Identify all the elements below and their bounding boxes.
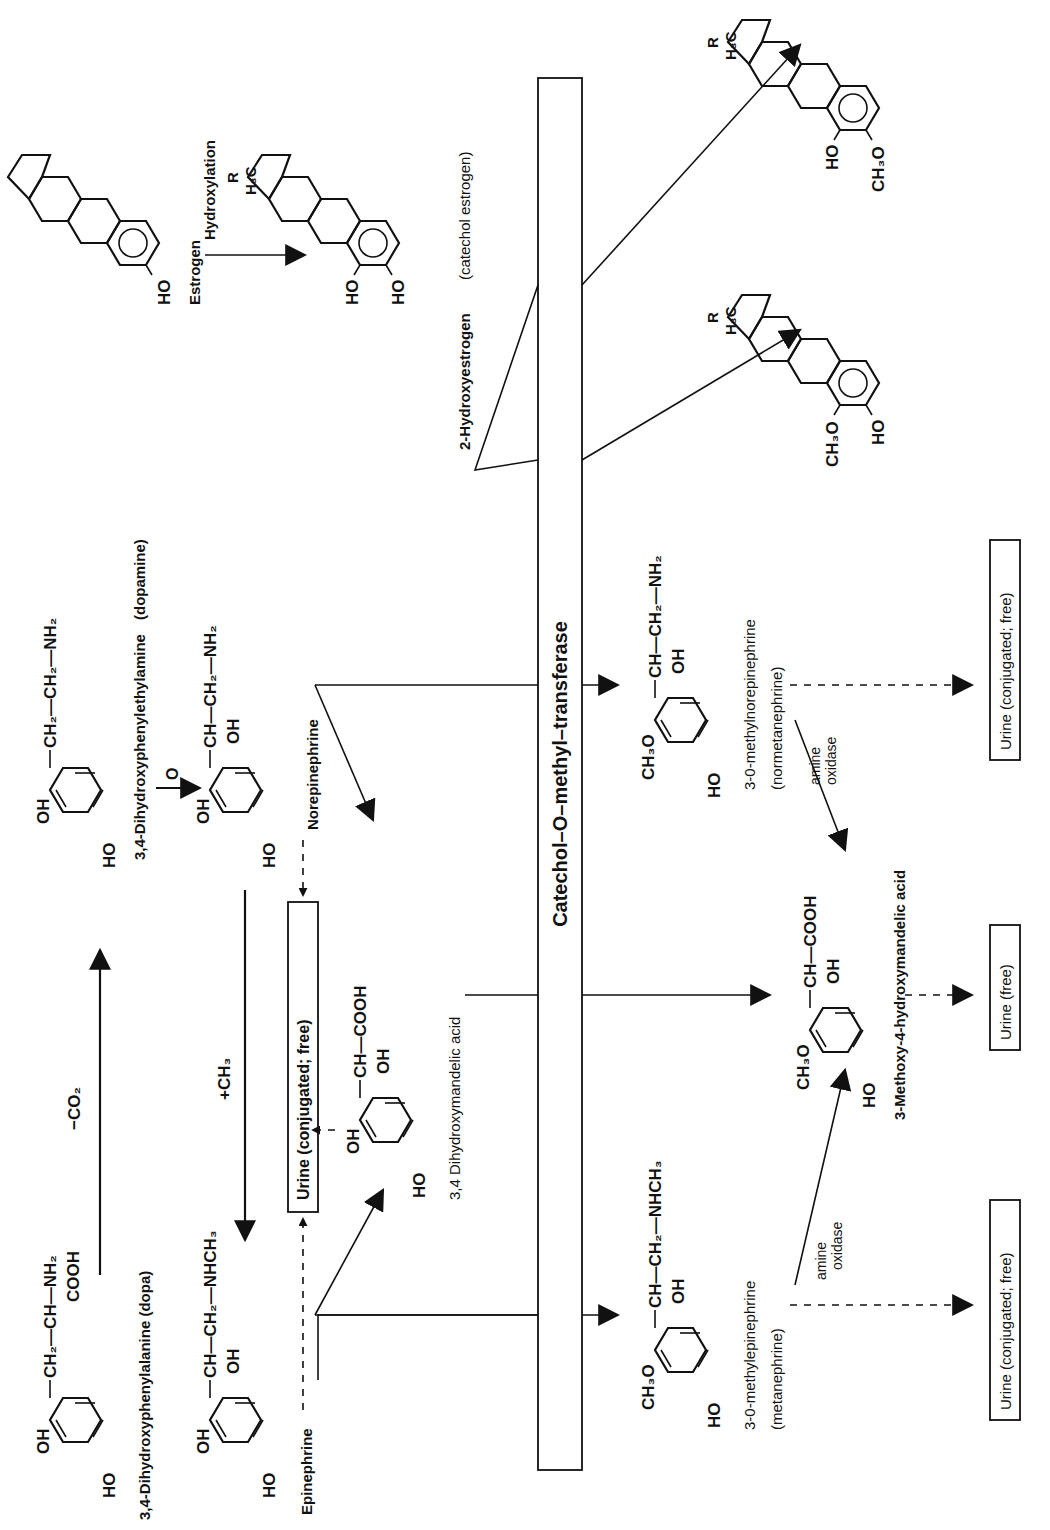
comt-enzyme-bar: Catechol–O–methyl–transferase: [538, 78, 582, 1470]
svg-text:HO: HO: [100, 843, 119, 869]
urine-box-top: Urine (conjugated; free): [288, 902, 318, 1212]
svg-text:CH—CH₂—NHCH₃: CH—CH₂—NHCH₃: [646, 1160, 665, 1308]
compound-epinephrine: OH HO CH—CH₂—NHCH₃ OH: [194, 1230, 279, 1498]
svg-text:HO: HO: [260, 843, 279, 869]
epinephrine-name: Epinephrine: [298, 1428, 315, 1515]
svg-text:CH₂—CH₂—NH₂: CH₂—CH₂—NH₂: [41, 618, 60, 748]
compound-dopa: OH HO CH₂—CH—NH₂ COOH: [34, 1251, 119, 1498]
estrogen-name: Estrogen: [186, 240, 203, 305]
epinephrine-to-dhma-arrow: [315, 1190, 383, 1315]
urine-box-normetanephrine: Urine (conjugated; free): [990, 540, 1020, 760]
svg-text:R: R: [704, 37, 721, 48]
compound-dihydroxymandelic-acid: OH HO CH—COOH OH: [344, 985, 429, 1198]
svg-text:H₃C: H₃C: [722, 31, 739, 60]
norepinephrine-to-dhma-arrow: [315, 685, 373, 820]
svg-text:HO: HO: [705, 773, 724, 799]
compound-vma: CH₃O HO CH—COOH OH: [794, 895, 879, 1108]
svg-text:CH—CH₂—NH₂: CH—CH₂—NH₂: [646, 555, 665, 678]
svg-text:OH: OH: [669, 649, 688, 675]
compound-metanephrine: CH₃O HO CH—CH₂—NHCH₃ OH: [639, 1160, 724, 1428]
hydroxyestrogen-alias: (catechol estrogen): [456, 152, 473, 280]
urine-box-metanephrine: Urine (conjugated; free): [990, 1200, 1020, 1420]
svg-text:OH: OH: [224, 1349, 243, 1375]
norepinephrine-name: Norepinephrine: [304, 719, 321, 830]
metanephrine-alias: (metanephrine): [768, 1328, 785, 1430]
compound-normetanephrine: CH₃O HO CH—CH₂—NH₂ OH: [639, 555, 724, 798]
dopamine-name: 3,4-Dihydroxyphenylethylamine: [131, 634, 148, 860]
compound-2-hydroxyestrogen: HO HO H₃C R: [224, 155, 408, 305]
dopamine-alias: (dopamine): [131, 539, 148, 620]
svg-text:OH: OH: [669, 1279, 688, 1305]
svg-text:HO: HO: [823, 145, 842, 171]
compound-methoxyestrogen-a: CH₃O HO H₃C R: [704, 295, 888, 467]
pathway-diagram: Catechol–O–methyl–transferase OH HO CH₂—…: [0, 0, 1050, 1530]
svg-text:CH₃O: CH₃O: [823, 421, 842, 467]
svg-text:COOH: COOH: [64, 1251, 83, 1302]
svg-text:OH: OH: [374, 1049, 393, 1075]
svg-text:oxidase: oxidase: [829, 1222, 845, 1270]
svg-text:CH₃O: CH₃O: [639, 734, 658, 780]
urine-box-vma: Urine (free): [990, 925, 1020, 1050]
compound-dopamine: OH HO CH₂—CH₂—NH₂: [34, 618, 119, 868]
diagram-canvas: Catechol–O–methyl–transferase OH HO CH₂—…: [0, 0, 1050, 1530]
normetanephrine-alias: (normetanephrine): [768, 667, 785, 790]
svg-text:CH₃O: CH₃O: [794, 1044, 813, 1090]
compound-estrogen: HO: [8, 155, 174, 305]
svg-text:HO: HO: [155, 280, 174, 306]
svg-text:OH: OH: [824, 959, 843, 985]
svg-text:CH₂—CH—NH₂: CH₂—CH—NH₂: [41, 1255, 60, 1378]
svg-text:HO: HO: [343, 280, 362, 306]
svg-text:HO: HO: [869, 420, 888, 446]
svg-text:H₃C: H₃C: [242, 166, 259, 195]
svg-text:H₃C: H₃C: [722, 306, 739, 335]
svg-text:CH—COOH: CH—COOH: [801, 895, 820, 988]
oxidation-label: O: [164, 768, 181, 780]
svg-text:Urine (conjugated; free): Urine (conjugated; free): [997, 1252, 1014, 1410]
svg-text:R: R: [704, 312, 721, 323]
compound-methoxyestrogen-b: HO CH₃O H₃C R: [704, 20, 888, 192]
hydroxyestrogen-name: 2-Hydroxyestrogen: [456, 313, 473, 450]
svg-text:oxidase: oxidase: [823, 737, 839, 785]
svg-text:HO: HO: [260, 1473, 279, 1499]
comt-to-methoxyestrogen-b-arrow: [582, 45, 800, 285]
svg-text:Urine (conjugated; free): Urine (conjugated; free): [295, 1020, 312, 1200]
svg-text:HO: HO: [410, 1173, 429, 1199]
svg-text:OH: OH: [34, 1429, 53, 1455]
svg-text:CH—CH₂—NHCH₃: CH—CH₂—NHCH₃: [201, 1230, 220, 1378]
decarboxylation-label: −CO₂: [65, 1087, 84, 1130]
svg-text:HO: HO: [389, 280, 408, 306]
svg-text:Urine (free): Urine (free): [997, 964, 1014, 1040]
enzyme-label: Catechol–O–methyl–transferase: [549, 621, 571, 927]
dihydroxymandelic-name: 3,4 Dihydroxymandelic acid: [446, 1017, 463, 1200]
svg-text:OH: OH: [194, 799, 213, 825]
svg-text:CH—CH₂—NH₂: CH—CH₂—NH₂: [201, 625, 220, 748]
svg-text:CH—COOH: CH—COOH: [351, 985, 370, 1078]
svg-text:Urine (conjugated; free): Urine (conjugated; free): [997, 592, 1014, 750]
svg-text:HO: HO: [705, 1403, 724, 1429]
svg-text:OH: OH: [34, 799, 53, 825]
hydroxylation-label: Hydroxylation: [201, 140, 218, 240]
epi-comt-connector: [318, 1315, 538, 1380]
metanephrine-name: 3-0-methylepinephrine: [741, 1281, 758, 1430]
hydroxyestrogen-to-comt: [475, 285, 538, 470]
compound-norepinephrine: OH HO CH—CH₂—NH₂ OH: [194, 625, 279, 868]
svg-text:OH: OH: [224, 719, 243, 745]
dopa-name: 3,4-Dihydroxyphenylalanine (dopa): [136, 1271, 153, 1520]
methylation-label: +CH₃: [215, 1058, 234, 1100]
svg-text:amine: amine: [813, 1242, 829, 1280]
svg-text:HO: HO: [860, 1083, 879, 1109]
normetanephrine-name: 3-0-methylnorepinephrine: [741, 619, 758, 790]
comt-to-methoxyestrogen-a-arrow: [582, 330, 800, 460]
svg-text:OH: OH: [194, 1429, 213, 1455]
svg-text:HO: HO: [100, 1473, 119, 1499]
svg-text:amine: amine: [807, 747, 823, 785]
svg-text:CH₃O: CH₃O: [869, 146, 888, 192]
svg-text:R: R: [224, 172, 241, 183]
svg-text:OH: OH: [344, 1129, 363, 1155]
svg-text:CH₃O: CH₃O: [639, 1364, 658, 1410]
